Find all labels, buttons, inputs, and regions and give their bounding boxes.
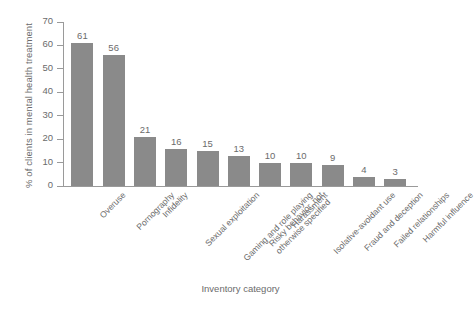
- x-tick-label: Overuse: [98, 190, 128, 220]
- y-tick-mark: [57, 68, 63, 69]
- bar-value-label: 21: [125, 124, 165, 135]
- bar-value-label: 9: [313, 152, 353, 163]
- y-tick-mark: [57, 22, 63, 23]
- y-tick-label: 0: [28, 179, 53, 190]
- bar: [322, 165, 344, 186]
- y-axis-line: [63, 22, 64, 187]
- bar: [71, 43, 93, 186]
- y-tick-label: 60: [28, 38, 53, 49]
- y-tick-mark: [57, 186, 63, 187]
- y-tick-label: 10: [28, 156, 53, 167]
- y-tick-mark: [57, 115, 63, 116]
- bar-value-label: 61: [62, 30, 102, 41]
- y-tick-label: 70: [28, 15, 53, 26]
- y-tick-mark: [57, 45, 63, 46]
- bar: [134, 137, 156, 186]
- bar: [259, 163, 281, 186]
- y-tick-label: 30: [28, 109, 53, 120]
- bar: [197, 151, 219, 186]
- y-tick-mark: [57, 162, 63, 163]
- bar-value-label: 3: [375, 166, 415, 177]
- bar: [228, 156, 250, 186]
- bar: [103, 55, 125, 186]
- x-axis-line: [63, 186, 418, 187]
- bar: [384, 179, 406, 186]
- y-tick-label: 40: [28, 85, 53, 96]
- y-tick-mark: [57, 92, 63, 93]
- bar: [290, 163, 312, 186]
- x-axis-title: Inventory category: [63, 283, 418, 294]
- x-tick-label-line: Overuse: [98, 190, 128, 220]
- y-tick-label: 50: [28, 62, 53, 73]
- bar: [353, 177, 375, 186]
- y-tick-mark: [57, 139, 63, 140]
- y-axis-title: % of clients in mental health treatment: [23, 6, 34, 206]
- bar-value-label: 56: [94, 42, 134, 53]
- y-tick-label: 20: [28, 132, 53, 143]
- x-tick-label-line: Sexual exploitation: [203, 190, 261, 248]
- x-tick-label: Sexual exploitation: [203, 190, 261, 248]
- bar: [165, 149, 187, 186]
